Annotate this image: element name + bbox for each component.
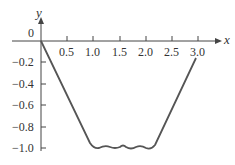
x-tick-label: 1.0 [85, 45, 100, 59]
y-tick-label: −1.0 [12, 141, 34, 155]
y-axis-label: y [34, 5, 42, 20]
y-tick-label: −0.2 [12, 55, 34, 69]
x-axis-arrow-icon [215, 38, 222, 44]
y-tick-label: −0.4 [12, 77, 34, 91]
x-ticks: 0.5 1.0 1.5 2.0 2.5 3.0 [59, 36, 205, 59]
x-tick-label: 1.5 [112, 45, 127, 59]
x-tick-label: 2.0 [138, 45, 153, 59]
y-tick-label: −0.8 [12, 120, 34, 134]
origin-label: 0 [28, 26, 34, 40]
x-axis-label: x [223, 32, 230, 47]
y-tick-label: −0.6 [12, 98, 34, 112]
x-tick-label: 2.5 [164, 45, 179, 59]
chart: x y 0 0.5 1.0 1.5 2.0 2.5 3.0 −0.2 −0.4 … [0, 0, 235, 165]
x-tick-label: 3.0 [190, 45, 205, 59]
x-tick-label: 0.5 [59, 45, 74, 59]
